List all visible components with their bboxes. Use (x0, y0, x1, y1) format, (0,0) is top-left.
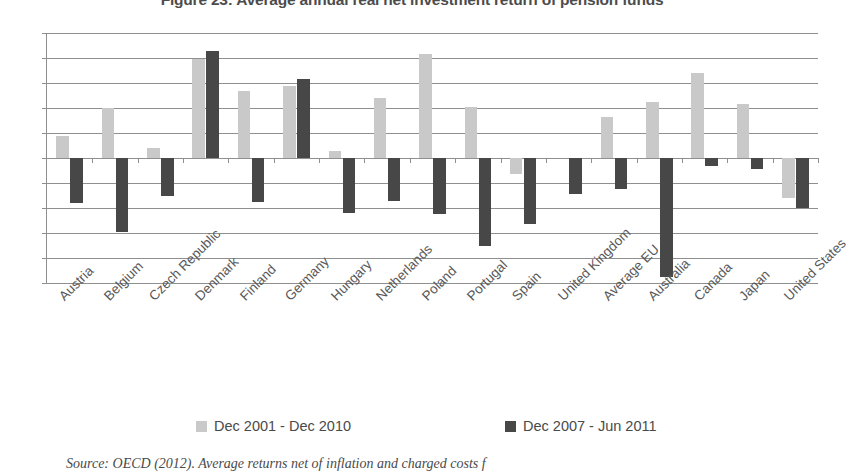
bar[interactable] (660, 158, 673, 277)
x-axis-tick (138, 158, 139, 163)
bar[interactable] (646, 102, 659, 158)
y-axis-tick (42, 233, 47, 234)
y-axis-tick (42, 58, 47, 59)
bar[interactable] (705, 158, 718, 166)
bar-group (691, 33, 718, 283)
x-axis-tick (818, 158, 819, 163)
bar-group (147, 33, 174, 283)
x-axis-tick (773, 158, 774, 163)
bar-group (102, 33, 129, 283)
bar-group (555, 33, 582, 283)
source-note: Source: OECD (2012). Average returns net… (66, 456, 826, 472)
bar[interactable] (238, 91, 251, 159)
x-axis-tick (682, 158, 683, 163)
bar[interactable] (524, 158, 537, 224)
bar[interactable] (751, 158, 764, 169)
bar-group (465, 33, 492, 283)
legend-label: Dec 2007 - Jun 2011 (523, 418, 657, 434)
bar[interactable] (374, 98, 387, 158)
legend-item[interactable]: Dec 2001 - Dec 2010 (196, 418, 351, 434)
bar[interactable] (102, 108, 115, 158)
x-axis-tick (546, 158, 547, 163)
bar[interactable] (782, 158, 795, 198)
bar[interactable] (419, 54, 432, 158)
bar[interactable] (297, 79, 310, 158)
bar[interactable] (192, 59, 205, 158)
x-axis-tick (727, 158, 728, 163)
y-axis-tick (42, 108, 47, 109)
bar-group (283, 33, 310, 283)
y-axis-tick (42, 33, 47, 34)
bar[interactable] (569, 158, 582, 194)
bar[interactable] (601, 117, 614, 158)
bar[interactable] (433, 158, 446, 214)
legend-item[interactable]: Dec 2007 - Jun 2011 (505, 418, 657, 434)
bar[interactable] (161, 158, 174, 196)
bar[interactable] (252, 158, 265, 202)
x-axis-tick (591, 158, 592, 163)
y-axis-tick (42, 258, 47, 259)
bar[interactable] (465, 107, 478, 158)
y-axis-tick (42, 83, 47, 84)
x-axis-tick (501, 158, 502, 163)
y-axis-tick (42, 158, 47, 159)
bar-group (56, 33, 83, 283)
bar[interactable] (147, 148, 160, 158)
bar[interactable] (796, 158, 809, 208)
legend-label: Dec 2001 - Dec 2010 (214, 418, 351, 434)
x-axis-tick (410, 158, 411, 163)
x-axis-labels: AustriaBelgiumCzech RepublicDenmarkFinla… (47, 289, 818, 399)
chart-legend: Dec 2001 - Dec 2010Dec 2007 - Jun 2011 (0, 418, 824, 440)
bar[interactable] (70, 158, 83, 203)
y-axis-tick (42, 133, 47, 134)
bar-group (510, 33, 537, 283)
legend-swatch-icon (505, 421, 516, 432)
bar[interactable] (116, 158, 129, 232)
bar[interactable] (479, 158, 492, 246)
y-axis-tick (42, 283, 47, 284)
x-axis-tick (319, 158, 320, 163)
legend-swatch-icon (196, 421, 207, 432)
bar-group (374, 33, 401, 283)
bar[interactable] (56, 136, 69, 159)
plot-area: 5%4%3%2%1%0%-1%-2%-3%-4%-5% (47, 33, 818, 283)
bar-group (329, 33, 356, 283)
x-axis-tick (364, 158, 365, 163)
x-axis-tick (637, 158, 638, 163)
bar[interactable] (737, 104, 750, 158)
x-axis-tick (274, 158, 275, 163)
bar-group (238, 33, 265, 283)
x-axis-tick (183, 158, 184, 163)
bar[interactable] (388, 158, 401, 201)
bar[interactable] (283, 86, 296, 159)
x-axis-tick (228, 158, 229, 163)
bar-group (737, 33, 764, 283)
y-axis-tick (42, 183, 47, 184)
bar[interactable] (343, 158, 356, 213)
chart-title: Figure 23: Average annual real net inves… (0, 0, 824, 9)
x-axis-tick (92, 158, 93, 163)
bar[interactable] (206, 51, 219, 159)
y-axis-tick (42, 208, 47, 209)
bar[interactable] (615, 158, 628, 189)
bar[interactable] (510, 158, 523, 174)
bar-group (782, 33, 809, 283)
x-axis-tick (455, 158, 456, 163)
bar[interactable] (329, 151, 342, 159)
bar[interactable] (691, 73, 704, 158)
